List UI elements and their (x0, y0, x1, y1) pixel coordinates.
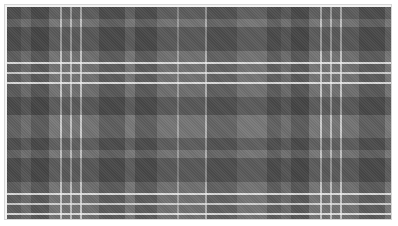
twill-texture (7, 7, 391, 219)
tartan-fabric-image (7, 7, 391, 219)
